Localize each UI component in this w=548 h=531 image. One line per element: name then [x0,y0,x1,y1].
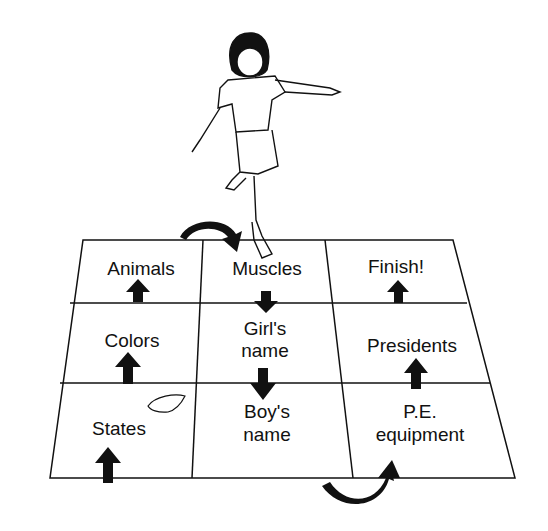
cell-colors: Colors [105,330,160,351]
cell-presidents: Presidents [367,335,457,356]
cell-pe-1: P.E. [403,401,436,422]
cell-pe-2: equipment [376,424,465,445]
beanbag-icon [148,395,185,412]
cell-girls-name-1: Girl's [244,318,287,339]
hopscotch-diagram: Animals Muscles Finish! Colors Girl's na… [0,0,548,531]
cell-boys-name-1: Boy's [244,401,290,422]
cell-states: States [92,418,146,439]
cell-animals: Animals [107,258,175,279]
cell-finish: Finish! [368,256,424,277]
cell-girls-name-2: name [241,340,289,361]
cell-boys-name-2: name [243,424,291,445]
cell-muscles: Muscles [232,258,302,279]
